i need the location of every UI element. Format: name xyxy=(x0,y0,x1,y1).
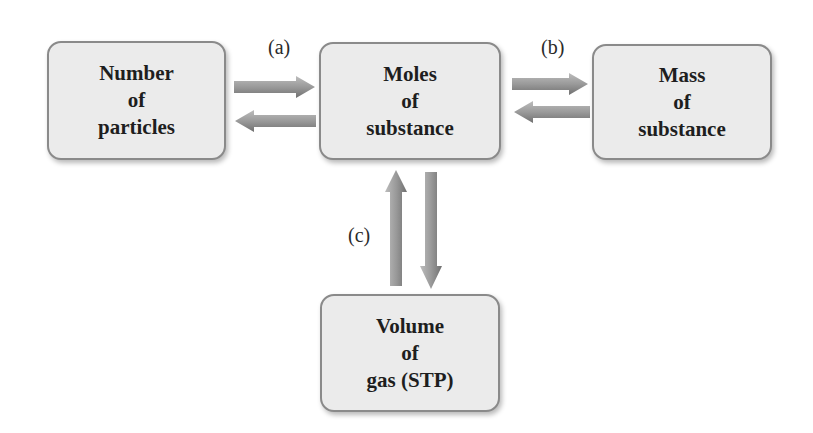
arrow-volume-to-moles xyxy=(385,170,407,286)
node-text: Mass of substance xyxy=(638,62,726,143)
label-b: (b) xyxy=(541,37,564,57)
arrow-particles-to-moles xyxy=(234,76,315,98)
node-text: Moles of substance xyxy=(366,61,454,142)
arrow-mass-to-moles xyxy=(514,101,590,123)
label-a: (a) xyxy=(268,37,290,57)
mole-conversion-diagram: (a) (b) (c) Number of particles Moles of… xyxy=(0,0,813,433)
node-moles-of-substance: Moles of substance xyxy=(319,42,501,160)
label-c: (c) xyxy=(348,225,370,245)
arrow-moles-to-particles xyxy=(235,110,316,132)
node-volume-of-gas: Volume of gas (STP) xyxy=(320,294,500,412)
arrow-moles-to-volume xyxy=(420,172,442,289)
node-mass-of-substance: Mass of substance xyxy=(592,44,772,160)
arrow-moles-to-mass xyxy=(512,73,588,95)
node-text: Number of particles xyxy=(98,60,175,141)
node-number-of-particles: Number of particles xyxy=(47,41,226,160)
node-text: Volume of gas (STP) xyxy=(367,313,454,394)
